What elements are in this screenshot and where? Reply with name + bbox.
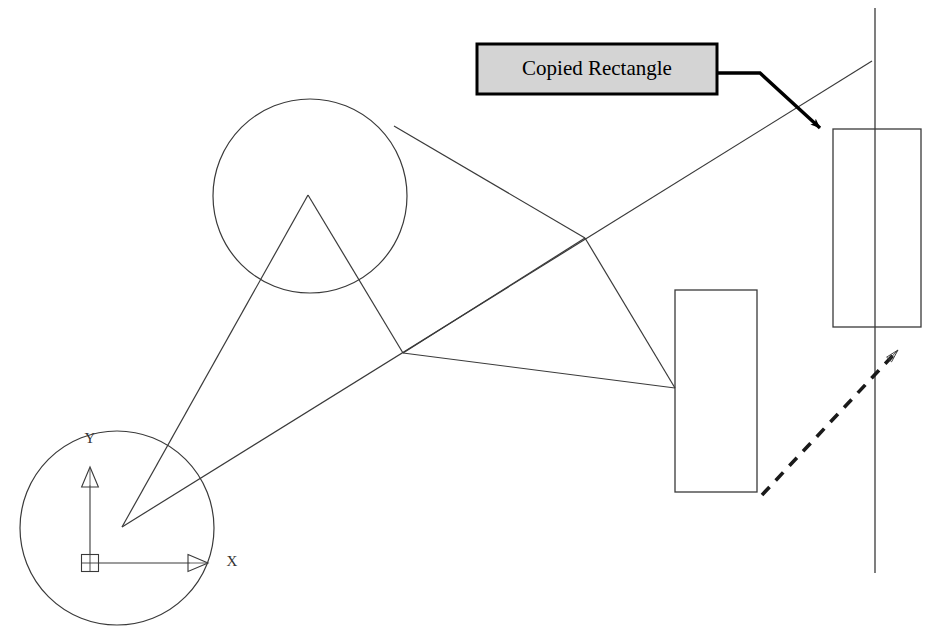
upper-circle <box>213 99 407 293</box>
wireframe-apex-to-lower-vertex <box>122 195 308 527</box>
callout-box-label: Copied Rectangle <box>522 56 672 80</box>
wireframe-lines <box>122 126 675 527</box>
cad-diagram: X Y Copied Rectangle <box>0 0 937 636</box>
wireframe-circle-edge-to-right-vertex <box>394 126 585 238</box>
wireframe-right-vertex-to-rect <box>585 238 675 388</box>
wireframe-mid-to-right-vertex <box>403 238 585 353</box>
lower-circle <box>20 431 214 625</box>
diagram-canvas: X Y Copied Rectangle <box>0 0 937 636</box>
ucs-y-label: Y <box>85 430 96 446</box>
original-rectangle <box>675 290 757 492</box>
callout-box[interactable]: Copied Rectangle <box>477 44 717 94</box>
ucs-icon: X Y <box>82 430 238 571</box>
callout-leader-line <box>717 73 820 128</box>
displacement-dashed-arrow <box>762 350 898 495</box>
ucs-x-label: X <box>227 553 238 569</box>
wireframe-apex-to-mid-vertex <box>308 195 403 353</box>
wireframe-mid-vertex-to-rect <box>403 353 675 388</box>
copied-rectangle <box>833 129 921 327</box>
